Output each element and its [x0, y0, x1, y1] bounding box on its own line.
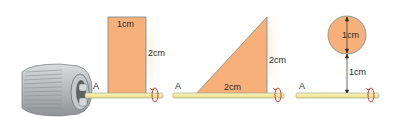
- circle-diameter-label: 1cm: [342, 30, 359, 40]
- circle-distance-label: 1cm: [349, 67, 366, 77]
- axis-label-a: A: [175, 81, 181, 91]
- rotation-axis-rod: [85, 93, 163, 98]
- triangle-base-label: 2cm: [224, 82, 241, 92]
- panel-rectangle: A 1cm 2cm: [85, 15, 168, 102]
- rectangle-height-label: 2cm: [148, 48, 165, 58]
- rotation-axis-rod: [296, 93, 379, 98]
- rectangle-width-label: 1cm: [117, 19, 134, 29]
- panel-triangle: A 2cm 2cm: [173, 12, 286, 102]
- rotation-axis-rod: [173, 93, 284, 98]
- rotation-solids-diagram: A 1cm 2cm A 2cm 2cm 1cm: [0, 0, 399, 117]
- panel-circle: 1cm 1cm A: [296, 16, 379, 102]
- drill-chuck-icon: [22, 64, 92, 116]
- axis-label-a: A: [93, 81, 99, 91]
- triangle-height-label: 2cm: [269, 55, 286, 65]
- axis-label-a: A: [299, 81, 305, 91]
